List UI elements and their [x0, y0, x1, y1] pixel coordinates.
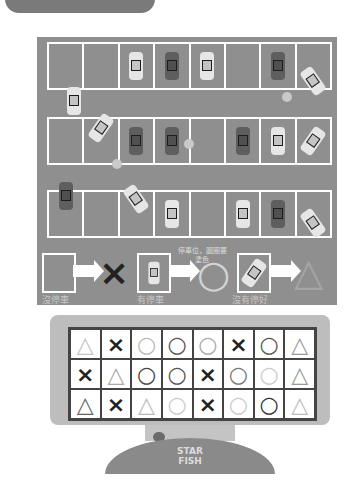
- car-icon: [236, 200, 250, 228]
- arrow-icon: [73, 265, 95, 277]
- car-icon: [129, 52, 143, 80]
- car-icon: [300, 126, 328, 157]
- space: [226, 192, 261, 236]
- space: [49, 192, 84, 236]
- legend-parked-space: [137, 253, 171, 293]
- grid-cell[interactable]: ×: [70, 359, 101, 389]
- car-icon: [67, 87, 81, 115]
- space: [84, 44, 119, 88]
- grid-cell[interactable]: △: [131, 389, 162, 419]
- car-icon: [200, 52, 214, 80]
- parking-row-3: [47, 190, 332, 238]
- space: [191, 119, 226, 163]
- grid-cell[interactable]: ○: [254, 389, 285, 419]
- space: [120, 44, 155, 88]
- triangle-icon: △: [294, 253, 323, 291]
- space: [261, 119, 296, 163]
- grid-cell[interactable]: ○: [131, 359, 162, 389]
- car-icon: [271, 127, 285, 155]
- legend-note: 停車位，圓圈要塗色: [177, 247, 227, 265]
- grid-cell[interactable]: ○: [223, 389, 254, 419]
- grid-cell[interactable]: ○: [223, 359, 254, 389]
- space: [191, 44, 226, 88]
- logo-line-2: FISH: [105, 456, 275, 466]
- grid-cell[interactable]: ○: [162, 329, 193, 359]
- answer-grid: △ × ○ ○ ○ × ○ △ × △ ○ ○ × ○ ○ △ △ × △ ○ …: [68, 327, 317, 421]
- space: [226, 119, 261, 163]
- space: [49, 44, 84, 88]
- car-icon: [300, 207, 328, 238]
- parking-lot: × 沒停車 ○ 停車位，圓圈要塗色 有停車 △ 沒有停好: [37, 37, 337, 305]
- logo-line-1: STAR: [105, 446, 275, 456]
- space: [84, 192, 119, 236]
- car-icon: [271, 200, 285, 228]
- car-icon: [300, 66, 328, 97]
- grid-cell[interactable]: ×: [101, 329, 132, 359]
- grid-cell[interactable]: ○: [162, 359, 193, 389]
- grid-cell[interactable]: △: [70, 389, 101, 419]
- car-icon: [148, 262, 159, 284]
- person-icon: [184, 139, 194, 149]
- legend-label: 沒有停好: [232, 293, 268, 306]
- car-icon: [59, 182, 73, 210]
- monitor-stand-base: STAR FISH: [105, 438, 275, 474]
- grid-cell[interactable]: ×: [193, 389, 224, 419]
- grid-cell[interactable]: △: [101, 359, 132, 389]
- cross-icon: ×: [99, 255, 129, 291]
- car-icon: [165, 52, 179, 80]
- legend-label: 有停車: [137, 293, 164, 306]
- grid-cell[interactable]: ×: [223, 329, 254, 359]
- grid-cell[interactable]: ○: [193, 329, 224, 359]
- logo: STAR FISH: [105, 446, 275, 466]
- grid-cell[interactable]: △: [284, 329, 315, 359]
- person-icon: [112, 159, 122, 169]
- space: [261, 44, 296, 88]
- legend-badly-parked-space: [237, 253, 271, 293]
- arrow-icon: [270, 265, 292, 277]
- parking-row-1: [47, 42, 332, 90]
- grid-cell[interactable]: △: [284, 359, 315, 389]
- grid-cell[interactable]: ×: [101, 389, 132, 419]
- car-icon: [236, 127, 250, 155]
- space: [49, 119, 84, 163]
- car-icon: [165, 127, 179, 155]
- car-icon: [123, 183, 151, 214]
- header-tab: [5, 0, 155, 13]
- grid-cell[interactable]: ×: [193, 359, 224, 389]
- space: [297, 44, 330, 88]
- space: [261, 192, 296, 236]
- monitor-screen: △ × ○ ○ ○ × ○ △ × △ ○ ○ × ○ ○ △ △ × △ ○ …: [50, 315, 330, 425]
- arrow-icon: [169, 265, 191, 277]
- car-icon: [240, 258, 268, 289]
- legend-empty-space: [42, 253, 76, 293]
- space: [297, 119, 330, 163]
- car-icon: [271, 52, 285, 80]
- grid-cell[interactable]: △: [70, 329, 101, 359]
- person-icon: [282, 92, 292, 102]
- space: [120, 192, 155, 236]
- space: [155, 44, 190, 88]
- space: [84, 119, 119, 163]
- grid-cell[interactable]: ○: [131, 329, 162, 359]
- legend: × 沒停車 ○ 停車位，圓圈要塗色 有停車 △ 沒有停好: [37, 247, 337, 305]
- space: [226, 44, 261, 88]
- space: [155, 192, 190, 236]
- space: [191, 192, 226, 236]
- car-icon: [87, 112, 115, 143]
- grid-cell[interactable]: △: [284, 389, 315, 419]
- grid-cell[interactable]: ○: [162, 389, 193, 419]
- grid-cell[interactable]: ○: [254, 329, 285, 359]
- car-icon: [165, 200, 179, 228]
- car-icon: [129, 127, 143, 155]
- space: [297, 192, 330, 236]
- space: [120, 119, 155, 163]
- grid-cell[interactable]: ○: [254, 359, 285, 389]
- legend-label: 沒停車: [42, 293, 69, 306]
